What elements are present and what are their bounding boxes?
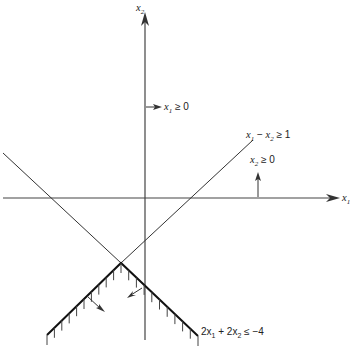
x1-nonneg-label: x1 ≥ 0 xyxy=(163,101,189,115)
x1-minus-x2-label: x1 − x2 ≥ 1 xyxy=(245,129,291,143)
sum-constraint-hatching xyxy=(47,263,198,346)
descending-guide-line xyxy=(3,153,121,263)
sum-constraint-boundary xyxy=(47,263,198,336)
right-direction-arrowhead-icon xyxy=(127,291,136,298)
x2-axis-label: x2 xyxy=(135,2,145,16)
x1-minus-x2-boundary-line xyxy=(121,140,253,263)
infeasible-lp-diagram: x1 x2 x1 ≥ 0 x2 ≥ 0 x1 − x2 ≥ 1 2x1 + 2x… xyxy=(0,0,354,346)
sum-constraint-label: 2x1 + 2x2 ≤ −4 xyxy=(201,326,264,339)
x1-axis-label: x1 xyxy=(341,192,350,206)
x2-nonneg-label: x2 ≥ 0 xyxy=(249,154,275,168)
